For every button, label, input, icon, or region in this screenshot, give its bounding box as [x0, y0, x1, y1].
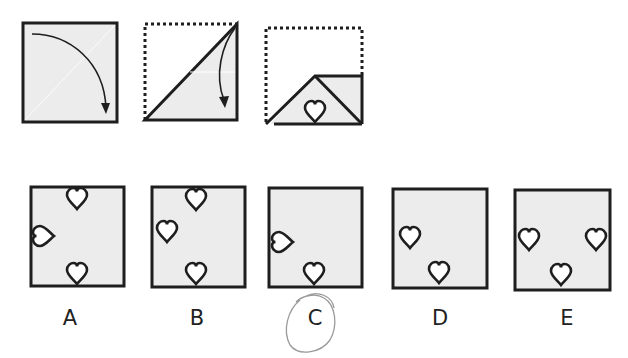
fold-step-3: [266, 28, 362, 124]
option-e[interactable]: [515, 190, 610, 290]
paper-folding-puzzle: [0, 0, 628, 358]
option-c[interactable]: [269, 188, 362, 287]
option-label-e[interactable]: E: [547, 306, 587, 330]
option-d[interactable]: [393, 189, 487, 288]
option-label-c[interactable]: C: [295, 306, 335, 330]
option-label-d[interactable]: D: [420, 306, 460, 330]
option-b[interactable]: [152, 187, 245, 287]
option-a[interactable]: [31, 187, 124, 286]
option-label-b[interactable]: B: [177, 306, 217, 330]
fold-step-2: [145, 24, 237, 120]
fold-step-1: [23, 23, 117, 122]
option-label-a[interactable]: A: [50, 306, 90, 330]
answer-options: [31, 187, 610, 290]
